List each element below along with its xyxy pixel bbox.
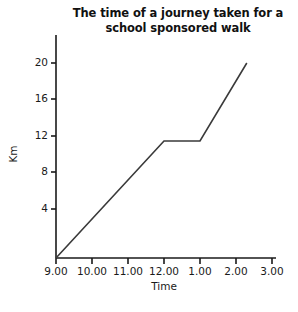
y-tick-label-8: 8 bbox=[22, 166, 48, 177]
x-tick-label-3: 3.00 bbox=[250, 266, 294, 277]
y-tick-label-4: 4 bbox=[22, 203, 48, 214]
y-tick-label-16: 16 bbox=[22, 93, 48, 104]
x-axis-ticks bbox=[56, 258, 272, 264]
y-axis-title: Km bbox=[7, 134, 19, 174]
data-line-journey bbox=[56, 63, 247, 258]
y-tick-label-20: 20 bbox=[22, 57, 48, 68]
x-axis-title: Time bbox=[56, 280, 272, 292]
chart-container: The time of a journey taken for a school… bbox=[0, 0, 298, 312]
y-tick-label-12: 12 bbox=[22, 130, 48, 141]
